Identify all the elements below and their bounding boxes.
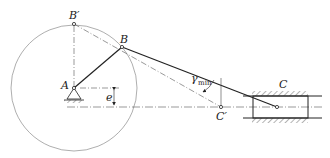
joint-c-prime <box>219 105 222 108</box>
joint-a <box>72 86 75 89</box>
guide-hatch-bottom <box>252 118 308 123</box>
label-c-prime: C′ <box>216 110 227 123</box>
offset-slider-crank-diagram: A B B′ C C′ e γ min <box>0 0 330 158</box>
joint-b-prime <box>72 22 75 25</box>
label-b: B <box>119 33 128 46</box>
label-gamma-sub: min <box>198 79 212 87</box>
guide-hatch-top <box>252 91 308 96</box>
label-gamma: γ <box>191 72 198 85</box>
crank-ab <box>74 47 122 88</box>
label-e: e <box>106 91 113 104</box>
extreme-rod-position <box>74 24 221 107</box>
joint-c <box>275 105 278 108</box>
label-c: C <box>279 78 288 91</box>
ground-hatch-a <box>64 100 84 103</box>
connecting-rod-bc <box>122 47 277 107</box>
label-a: A <box>60 79 69 92</box>
label-b-prime: B′ <box>68 9 80 22</box>
